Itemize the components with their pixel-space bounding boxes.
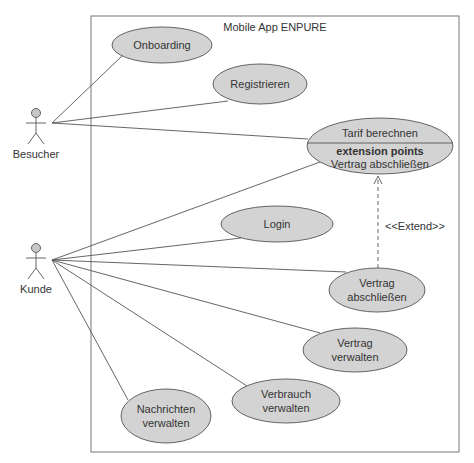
use-case-tarif[interactable]: Tarif berechnenextension pointsVertrag a…: [307, 118, 453, 174]
use-case-ellipse: [232, 379, 340, 423]
system-title: Mobile App ENPURE: [223, 21, 326, 33]
actor-label: Besucher: [13, 148, 60, 160]
association-line-kunde-verbrauch_verwalten: [52, 260, 247, 386]
use-case-onboarding[interactable]: Onboarding: [112, 27, 212, 63]
use-case-label: verwalten: [262, 402, 309, 414]
actor-legs: [28, 133, 44, 144]
actor-label: Kunde: [20, 283, 52, 295]
actor-besucher[interactable]: Besucher: [13, 109, 60, 161]
actor-head-icon: [32, 244, 41, 253]
use-case-label: Verbrauch: [261, 388, 311, 400]
use-case-label: Tarif berechnen: [342, 127, 418, 139]
association-line-besucher-registrieren: [52, 101, 228, 123]
extend-relation: <<Extend>>: [374, 176, 445, 268]
use-cases: OnboardingRegistrierenTarif berechnenext…: [112, 27, 453, 443]
association-line-kunde-vertrag_verwalten: [52, 260, 320, 333]
use-case-vertrag_abschliessen[interactable]: Vertragabschließen: [329, 268, 425, 312]
use-case-vertrag_verwalten[interactable]: Vertragverwalten: [303, 328, 407, 372]
association-line-kunde-vertrag_abschliessen: [52, 260, 346, 272]
use-case-label: Vertrag: [359, 277, 394, 289]
association-line-kunde-login: [52, 238, 241, 260]
use-case-label: verwalten: [331, 351, 378, 363]
extension-point-label: Vertrag abschließen: [331, 158, 429, 170]
use-case-verbrauch_verwalten[interactable]: Verbrauchverwalten: [232, 379, 340, 423]
use-case-label: Login: [264, 218, 291, 230]
association-line-kunde-nachrichten_verwalten: [52, 260, 128, 400]
use-case-registrieren[interactable]: Registrieren: [213, 64, 307, 104]
actors: BesucherKunde: [13, 109, 60, 296]
actor-head-icon: [32, 109, 41, 118]
use-case-label: Vertrag: [337, 337, 372, 349]
use-case-label: Nachrichten: [137, 403, 196, 415]
use-case-diagram: Mobile App ENPURE <<Extend>> OnboardingR…: [0, 0, 474, 463]
use-case-label: abschließen: [347, 291, 406, 303]
use-case-ellipse: [121, 389, 211, 443]
actor-legs: [28, 268, 44, 279]
use-case-login[interactable]: Login: [221, 206, 333, 242]
use-case-label: Registrieren: [230, 78, 289, 90]
use-case-ellipse: [303, 328, 407, 372]
use-case-ellipse: [329, 268, 425, 312]
use-case-nachrichten_verwalten[interactable]: Nachrichtenverwalten: [121, 389, 211, 443]
use-case-label: Onboarding: [133, 39, 191, 51]
use-case-label: verwalten: [142, 417, 189, 429]
association-line-besucher-tarif: [52, 123, 308, 139]
extension-points-header: extension points: [336, 145, 423, 157]
actor-kunde[interactable]: Kunde: [20, 244, 52, 296]
association-line-besucher-onboarding: [52, 56, 122, 123]
extend-label: <<Extend>>: [385, 220, 445, 232]
